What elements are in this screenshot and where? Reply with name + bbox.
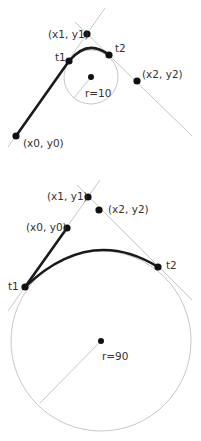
label-x1-y1: (x1, y1) <box>48 28 89 40</box>
point-x0-y0 <box>12 132 19 139</box>
center-point <box>98 338 104 344</box>
label-x0-y0: (x0, y0) <box>23 137 64 149</box>
label-t2: t2 <box>166 259 177 271</box>
point-t2 <box>105 51 112 58</box>
label-radius: r=10 <box>85 87 111 99</box>
point-x2-y2 <box>95 206 102 213</box>
label-t1: t1 <box>8 280 19 292</box>
point-t2 <box>154 263 161 270</box>
line-segment <box>25 228 67 287</box>
arcto-diagram: (x0, y0) (x1, y1) (x2, y2) t1 t2 r=10 (x… <box>0 0 201 441</box>
label-x0-y0: (x0, y0) <box>26 221 67 233</box>
label-x2-y2: (x2, y2) <box>108 203 149 215</box>
arc-path <box>25 250 158 287</box>
label-x1-y1: (x1, y1) <box>47 190 88 202</box>
center-point <box>88 74 94 80</box>
diagram-large-radius: (x0, y0) (x1, y1) (x2, y2) t1 t2 r=90 <box>8 180 192 431</box>
diagram-small-radius: (x0, y0) (x1, y1) (x2, y2) t1 t2 r=10 <box>8 8 192 149</box>
label-t1: t1 <box>55 51 66 63</box>
label-x2-y2: (x2, y2) <box>142 68 183 80</box>
label-t2: t2 <box>115 42 126 54</box>
point-x2-y2 <box>133 77 140 84</box>
point-t1 <box>65 57 72 64</box>
radius-line <box>40 341 101 403</box>
point-t1 <box>21 283 28 290</box>
label-radius: r=90 <box>102 350 128 362</box>
